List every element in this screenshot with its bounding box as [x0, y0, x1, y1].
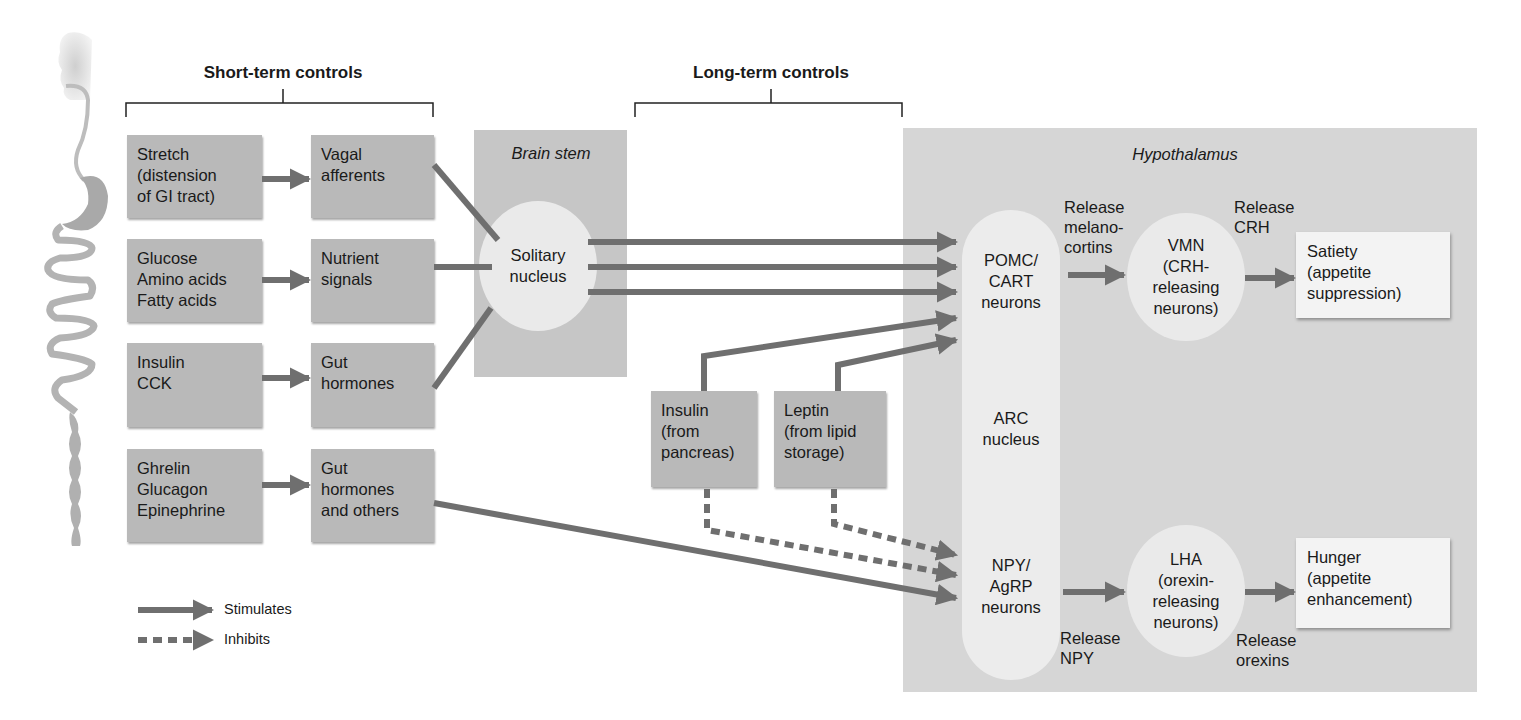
legend-stimulates-label: Stimulates	[224, 601, 292, 617]
inhibits-arrow	[834, 489, 956, 555]
legend-inhibits-label: Inhibits	[224, 631, 270, 647]
connector-line	[434, 308, 491, 388]
connector-line	[434, 165, 498, 240]
stimulates-arrow	[434, 503, 956, 598]
stimulates-arrow	[838, 340, 956, 391]
stimulates-arrow	[704, 318, 956, 391]
